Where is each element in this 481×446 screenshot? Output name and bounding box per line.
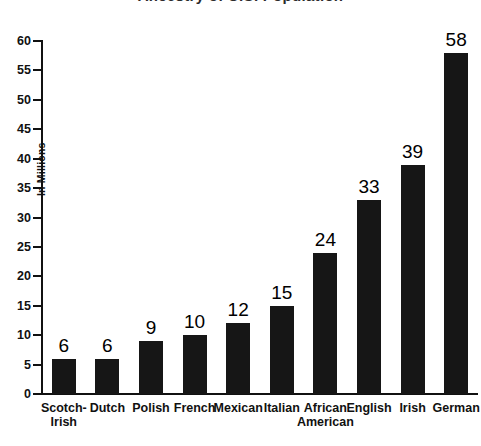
y-axis-tick-label: 45 xyxy=(0,123,31,135)
y-axis-tick-label-text: 30 xyxy=(1,212,31,225)
y-axis-tick-label-text: 50 xyxy=(1,94,31,107)
y-axis-tick xyxy=(33,305,41,307)
y-axis-tick-label-text: 40 xyxy=(1,153,31,166)
y-axis-tick-label-text: 5 xyxy=(1,359,31,372)
y-axis-tick-label: 25 xyxy=(0,241,31,253)
y-axis-tick-label: 60 xyxy=(0,35,31,47)
y-axis-tick xyxy=(33,393,41,395)
x-axis-category-label: German xyxy=(416,401,481,415)
y-axis-tick-label: 30 xyxy=(0,212,31,224)
y-axis-tick-label: 55 xyxy=(0,64,31,76)
bar xyxy=(226,323,250,394)
bar xyxy=(95,359,119,394)
y-axis-tick-label: 0 xyxy=(0,388,31,400)
bar-value-label: 39 xyxy=(388,142,438,161)
bar-value-label: 15 xyxy=(257,283,307,302)
bar-chart: Ancestry of U.S. Population 605550454035… xyxy=(0,0,481,446)
y-axis-tick-label: 50 xyxy=(0,94,31,106)
bar-value-label: 6 xyxy=(82,336,132,355)
y-axis-tick xyxy=(33,246,41,248)
y-axis-tick xyxy=(33,99,41,101)
bar xyxy=(52,359,76,394)
y-axis-tick xyxy=(33,128,41,130)
y-axis-tick-label: 35 xyxy=(0,182,31,194)
chart-title: Ancestry of U.S. Population xyxy=(0,0,481,4)
bar xyxy=(444,53,468,394)
category-label-line2: American xyxy=(285,415,365,429)
y-axis-tick-label-text: 25 xyxy=(1,241,31,254)
bar-value-label: 6 xyxy=(39,336,89,355)
y-axis-tick-label-text: 20 xyxy=(1,270,31,283)
y-axis-tick-label-text: 35 xyxy=(1,182,31,195)
y-axis-tick-label-text: 0 xyxy=(1,388,31,401)
bar-value-label: 24 xyxy=(300,230,350,249)
y-axis-tick xyxy=(33,275,41,277)
bar xyxy=(313,253,337,394)
y-axis-tick-label: 15 xyxy=(0,300,31,312)
y-axis-tick xyxy=(33,40,41,42)
bar xyxy=(357,200,381,394)
bar xyxy=(401,165,425,394)
y-axis-tick xyxy=(33,217,41,219)
bar xyxy=(183,335,207,394)
y-axis-tick-label: 20 xyxy=(0,270,31,282)
bar-value-label: 58 xyxy=(431,30,481,49)
y-axis-tick-label: 40 xyxy=(0,153,31,165)
y-axis-tick-label-text: 55 xyxy=(1,64,31,77)
y-axis-tick xyxy=(33,69,41,71)
y-axis-tick-label: 10 xyxy=(0,329,31,341)
bar-value-label: 10 xyxy=(170,312,220,331)
bar-value-label: 9 xyxy=(126,318,176,337)
category-label-line2: Irish xyxy=(24,415,104,429)
y-axis-tick-label-text: 60 xyxy=(1,35,31,48)
y-axis-tick-label-text: 10 xyxy=(1,329,31,342)
y-axis-tick-label-text: 15 xyxy=(1,300,31,313)
y-axis-tick-label-text: 45 xyxy=(1,123,31,136)
bar-value-label: 33 xyxy=(344,177,394,196)
category-label-line1: German xyxy=(433,401,480,415)
bar xyxy=(270,306,294,394)
y-axis-tick-label: 5 xyxy=(0,359,31,371)
y-axis-tick xyxy=(33,364,41,366)
bar-value-label: 12 xyxy=(213,300,263,319)
bar xyxy=(139,341,163,394)
